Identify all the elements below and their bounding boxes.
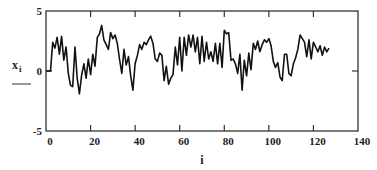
x-tick-label: 100 xyxy=(265,135,282,147)
y-tick-label: 5 xyxy=(37,5,43,17)
x-tick-label: 60 xyxy=(178,135,190,147)
x-tick-label: 0 xyxy=(47,135,53,147)
x-tick-label: 140 xyxy=(354,135,371,147)
plot-frame xyxy=(46,11,358,131)
data-series-line xyxy=(46,25,329,93)
y-axis-title-subscript: i xyxy=(19,64,22,74)
axis-tick-labels: 020406080100120140-505 xyxy=(33,5,371,147)
x-tick-label: 20 xyxy=(89,135,101,147)
plot-border xyxy=(46,11,358,131)
x-axis-title: i xyxy=(200,153,204,167)
y-tick-label: 0 xyxy=(37,65,43,77)
x-tick-label: 40 xyxy=(134,135,146,147)
y-tick-label: -5 xyxy=(33,125,43,137)
y-axis-title-main: x xyxy=(12,58,18,72)
svg-text:xi: xi xyxy=(12,58,22,74)
axis-ticks xyxy=(46,11,358,131)
x-tick-label: 80 xyxy=(223,135,235,147)
line-chart: 020406080100120140-505 i xi xyxy=(0,0,377,170)
x-tick-label: 120 xyxy=(309,135,326,147)
y-axis-title: xi xyxy=(12,58,31,84)
